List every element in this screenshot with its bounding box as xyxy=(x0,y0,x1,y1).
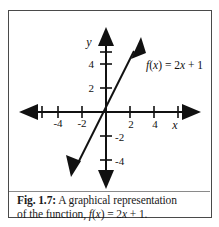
x-tick-label-2: 2 xyxy=(128,118,134,130)
y-axis-label: y xyxy=(85,35,92,49)
x-axis-right-arrowhead xyxy=(182,104,201,120)
y-tick-label--2: -2 xyxy=(115,131,124,143)
x-axis-left-arrowhead xyxy=(19,104,38,120)
caption-line-1: A graphical representation xyxy=(58,194,177,206)
function-label-tail: + 1 xyxy=(185,59,203,71)
plot-area: -4 -2 2 4 4 2 -2 -4 y x f(x) = 2x + 1 xyxy=(9,11,210,191)
figure-box: -4 -2 2 4 4 2 -2 -4 y x f(x) = 2x + 1 Fi… xyxy=(8,10,212,218)
caption-line-2-prefix: of the function, xyxy=(17,208,89,220)
caption-divider xyxy=(9,191,210,192)
function-line-upper-arrowhead xyxy=(131,37,146,59)
x-tick-label-4: 4 xyxy=(152,118,158,130)
caption-fn-eq: = 2 xyxy=(104,208,122,220)
y-axis-top-arrowhead xyxy=(98,27,114,46)
figure-caption: Fig. 1.7: A graphical representation of … xyxy=(17,194,207,221)
function-label: f(x) = 2x + 1 xyxy=(146,59,203,72)
x-axis-label: x xyxy=(171,118,178,132)
graph-svg: -4 -2 2 4 4 2 -2 -4 y x f(x) = 2x + 1 xyxy=(9,11,210,191)
y-tick-label-4: 4 xyxy=(89,58,95,70)
caption-fn-tail: + 1. xyxy=(127,208,147,220)
y-tick-label--4: -4 xyxy=(115,155,125,167)
figure-number-label: Fig. 1.7: xyxy=(17,194,56,206)
y-axis-bottom-arrowhead xyxy=(98,170,114,189)
x-tick-label--4: -4 xyxy=(53,117,63,129)
x-tick-label--2: -2 xyxy=(77,117,86,129)
function-line-lower-arrowhead xyxy=(66,155,81,177)
y-tick-label-2: 2 xyxy=(89,82,95,94)
function-label-eq: = 2 xyxy=(162,59,180,71)
